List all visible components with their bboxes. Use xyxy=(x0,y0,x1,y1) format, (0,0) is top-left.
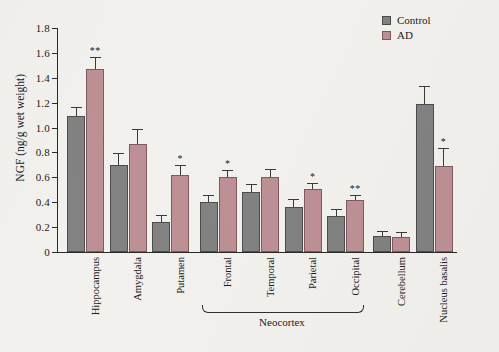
y-tick-label: 0.2 xyxy=(36,221,50,233)
bar-with-error xyxy=(152,28,170,252)
y-tick-mark xyxy=(52,128,57,129)
error-bar-cap xyxy=(156,215,167,216)
neocortex-bracket-label: Neocortex xyxy=(259,316,305,328)
bar-with-error xyxy=(242,28,260,252)
y-tick-label: 1.2 xyxy=(36,97,50,109)
error-bar-cap xyxy=(331,209,342,210)
error-bar xyxy=(443,149,444,166)
significance-marker: ** xyxy=(90,47,101,55)
x-axis-label-text: Amygdala xyxy=(132,257,143,301)
error-bar-cap xyxy=(90,57,101,58)
error-bar xyxy=(137,130,138,144)
error-bar xyxy=(208,196,209,202)
y-tick-mark xyxy=(52,28,57,29)
x-axis-label-text: Frontal xyxy=(222,257,233,287)
legend-label-control: Control xyxy=(397,15,431,26)
x-axis-label-text: Putamen xyxy=(175,257,186,294)
bar-group: * xyxy=(200,28,237,252)
y-tick-label: 0 xyxy=(44,246,50,258)
error-bar-cap xyxy=(438,148,449,149)
y-axis-title: NGF (ng/g wet weight) xyxy=(14,74,26,182)
x-axis-label: Hippocampus xyxy=(90,199,101,257)
error-bar-cap xyxy=(246,184,257,185)
y-tick-mark xyxy=(52,177,57,178)
y-tick-mark xyxy=(52,53,57,54)
significance-marker: ** xyxy=(350,185,361,193)
y-tick-mark xyxy=(52,252,57,253)
error-bar xyxy=(424,87,425,104)
y-tick-label: 0.8 xyxy=(36,146,50,158)
error-bar xyxy=(336,210,337,216)
error-bar xyxy=(293,200,294,207)
y-tick-label: 1.0 xyxy=(36,122,50,134)
x-axis-label-text: Parietal xyxy=(307,257,318,289)
y-tick-mark xyxy=(52,103,57,104)
error-bar xyxy=(382,232,383,236)
error-bar xyxy=(95,58,96,69)
error-bar-cap xyxy=(203,195,214,196)
error-bar-cap xyxy=(288,199,299,200)
x-axis-label: Parietal xyxy=(307,225,318,257)
bar-group: * xyxy=(152,28,189,252)
error-bar-cap xyxy=(71,107,82,108)
significance-marker: * xyxy=(310,173,316,181)
x-axis-label: Cerebellum xyxy=(396,208,407,257)
bar-with-error xyxy=(285,28,303,252)
error-bar-cap xyxy=(265,169,276,170)
y-tick-label: 1.8 xyxy=(36,22,50,34)
bar-with-error xyxy=(200,28,218,252)
y-tick-label: 0.6 xyxy=(36,171,50,183)
chart-figure: Control AD NGF (ng/g wet weight) 00.20.4… xyxy=(0,0,499,352)
error-bar-cap xyxy=(113,153,124,154)
significance-marker: * xyxy=(177,155,183,163)
error-bar xyxy=(227,171,228,177)
error-bar xyxy=(76,108,77,117)
legend-swatch-control xyxy=(382,16,391,25)
error-bar xyxy=(161,216,162,222)
error-bar xyxy=(312,184,313,189)
error-bar xyxy=(118,154,119,165)
bar-with-error: * xyxy=(219,28,237,252)
error-bar-cap xyxy=(132,129,143,130)
significance-marker: * xyxy=(441,138,447,146)
x-axis-label: Putamen xyxy=(175,220,186,257)
error-bar-cap xyxy=(222,170,233,171)
x-axis-label-text: Hippocampus xyxy=(90,257,101,315)
x-axis-label-text: Nucleus basalis xyxy=(438,257,449,323)
bar-group: * xyxy=(285,28,322,252)
x-axis-label-text: Occipital xyxy=(350,257,361,295)
bar-with-error: * xyxy=(171,28,189,252)
y-tick-label: 0.4 xyxy=(36,196,50,208)
error-bar-cap xyxy=(307,183,318,184)
y-tick-mark xyxy=(52,78,57,79)
significance-marker: * xyxy=(225,160,231,168)
neocortex-bracket xyxy=(202,305,363,313)
bar-with-error: * xyxy=(304,28,322,252)
x-axis-label: Nucleus basalis xyxy=(438,191,449,257)
error-bar-cap xyxy=(419,86,430,87)
error-bar-cap xyxy=(175,165,186,166)
error-bar xyxy=(251,185,252,192)
bar-with-error xyxy=(373,28,391,252)
legend-item-control: Control xyxy=(382,14,431,26)
error-bar xyxy=(270,170,271,177)
error-bar-cap xyxy=(377,231,388,232)
bar-with-error xyxy=(416,28,434,252)
x-axis-label-text: Temporal xyxy=(265,257,276,297)
x-axis-label-text: Cerebellum xyxy=(396,257,407,306)
bar-with-error xyxy=(110,28,128,252)
bar-with-error xyxy=(327,28,345,252)
error-bar xyxy=(355,196,356,200)
error-bar xyxy=(180,166,181,175)
x-axis-label: Occipital xyxy=(350,219,361,257)
y-tick-mark xyxy=(52,152,57,153)
y-tick-mark xyxy=(52,227,57,228)
error-bar-cap xyxy=(350,195,361,196)
y-tick-label: 1.4 xyxy=(36,72,50,84)
y-axis-title-host: NGF (ng/g wet weight) xyxy=(18,28,32,252)
bar-with-error xyxy=(67,28,85,252)
y-tick-label: 1.6 xyxy=(36,47,50,59)
y-tick-mark xyxy=(52,202,57,203)
x-axis-label: Amygdala xyxy=(132,213,143,257)
x-axis-label: Temporal xyxy=(265,217,276,257)
